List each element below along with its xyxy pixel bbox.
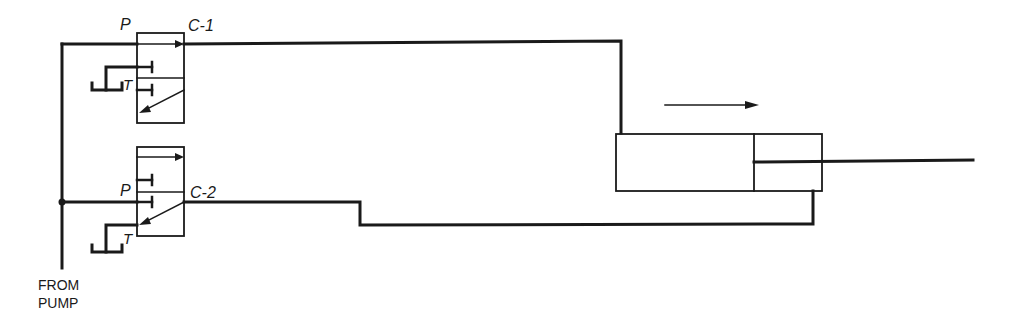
c2-line [184,191,813,225]
valve-1 [137,33,184,123]
valve2-pressure-label: P [120,182,131,199]
hydraulic-diagram: P C-1 T P C-2 T FROM PUMP [0,0,1011,329]
c1-line [184,41,621,133]
valve1-tank-label: T [123,76,134,93]
valve2-cylinder-label: C-2 [190,184,216,201]
valve1-cylinder-label: C-1 [188,17,214,34]
cylinder [616,134,973,191]
motion-arrow [665,101,759,109]
pump-label-line2: PUMP [38,295,78,311]
valve1-pressure-label: P [120,16,131,33]
pump-label-line1: FROM [38,277,79,293]
valve2-tank-label: T [123,230,134,247]
piston-rod [754,160,973,162]
valve-2 [137,147,184,236]
